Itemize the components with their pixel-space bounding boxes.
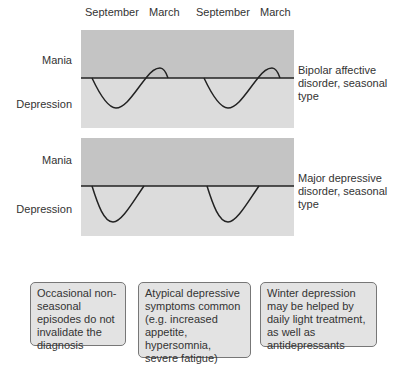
note-box-1: Occasional non-seasonal episodes do not …: [30, 282, 126, 346]
top-mania-label: Mania: [0, 54, 72, 66]
note-box-3: Winter depression may be helped by daily…: [260, 282, 377, 347]
top-mania-zone: [81, 30, 294, 78]
bottom-depression-label: Depression: [0, 203, 72, 215]
bottom-depression-zone: [81, 186, 294, 236]
bottom-mania-zone: [81, 138, 294, 186]
top-depression-label: Depression: [0, 98, 72, 110]
top-side-label: Bipolar affective disorder, seasonal typ…: [298, 64, 398, 103]
note-box-2: Atypical depressive symptoms common (e.g…: [138, 282, 251, 358]
bottom-side-label: Major depressive disorder, seasonal type: [298, 172, 398, 211]
top-depression-zone: [81, 78, 294, 128]
bottom-mania-label: Mania: [0, 154, 72, 166]
